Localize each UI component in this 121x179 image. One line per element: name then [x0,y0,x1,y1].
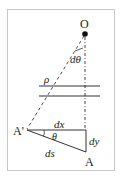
label-a-prime: A' [13,124,24,138]
label-rho: ρ [43,73,49,85]
oblique-dashed-line [27,36,84,129]
label-dy: dy [89,135,100,147]
label-origin: O [80,17,89,31]
theta-arc [44,130,45,136]
label-dtheta: dθ [70,53,82,65]
label-dx: dx [54,118,65,130]
label-theta: θ [52,131,57,142]
label-a: A [85,155,94,169]
origin-dot [82,31,88,37]
geometry-diagram: O dθ ρ A' dx θ dy ds A [0,0,121,179]
label-ds: ds [45,147,55,159]
